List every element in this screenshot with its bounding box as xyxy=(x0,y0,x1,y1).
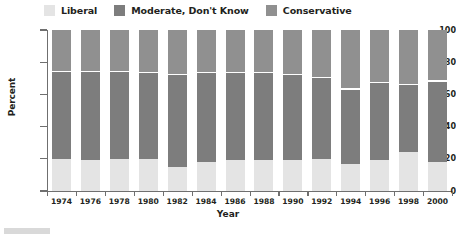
x-axis-tick xyxy=(394,191,395,196)
bar-segment-conservative xyxy=(52,30,71,72)
bar-segment-moderate xyxy=(399,85,418,153)
bar-segment-liberal xyxy=(139,159,158,191)
segment-divider xyxy=(168,74,187,75)
bar-segment-conservative xyxy=(341,30,360,90)
x-axis-tick xyxy=(336,191,337,196)
x-axis-tick xyxy=(47,191,48,196)
x-axis-tick-label: 1996 xyxy=(366,197,394,206)
y-axis-tick xyxy=(40,126,47,127)
x-axis-tick-label: 1978 xyxy=(105,197,133,206)
x-axis-tick-label: 2000 xyxy=(424,197,452,206)
segment-divider xyxy=(254,72,273,73)
table-row[interactable] xyxy=(168,30,187,191)
x-axis-tick-label: 1994 xyxy=(337,197,365,206)
x-axis-tick-label: 1976 xyxy=(76,197,104,206)
y-axis-tick xyxy=(40,94,47,95)
x-axis-tick xyxy=(452,191,453,196)
segment-divider xyxy=(139,72,158,73)
table-row[interactable] xyxy=(312,30,331,191)
bar-segment-moderate xyxy=(428,82,447,163)
table-row[interactable] xyxy=(197,30,216,191)
x-axis-tick xyxy=(365,191,366,196)
bar-segment-moderate xyxy=(81,72,100,161)
table-row[interactable] xyxy=(226,30,245,191)
bar-segment-moderate xyxy=(226,73,245,160)
y-axis-tick xyxy=(40,29,47,30)
table-row[interactable] xyxy=(428,30,447,191)
bar-segment-liberal xyxy=(168,167,187,191)
bar-segment-liberal xyxy=(399,152,418,191)
y-axis-tick xyxy=(40,62,47,63)
bar-segment-moderate xyxy=(197,73,216,162)
bar-segment-conservative xyxy=(110,30,129,72)
bar-segment-moderate xyxy=(139,73,158,158)
table-row[interactable] xyxy=(370,30,389,191)
segment-divider xyxy=(110,71,129,72)
x-axis-tick-label: 1990 xyxy=(279,197,307,206)
bar-segment-moderate xyxy=(52,72,71,159)
bar-segment-conservative xyxy=(370,30,389,83)
table-row[interactable] xyxy=(254,30,273,191)
table-row[interactable] xyxy=(283,30,302,191)
bar-segment-conservative xyxy=(283,30,302,75)
bar-segment-conservative xyxy=(81,30,100,72)
x-axis-tick-label: 1988 xyxy=(250,197,278,206)
x-axis-tick xyxy=(163,191,164,196)
bar-segment-conservative xyxy=(226,30,245,73)
bar-segment-moderate xyxy=(168,75,187,167)
bar-segment-moderate xyxy=(283,75,302,160)
segment-divider xyxy=(312,77,331,78)
bar-segment-conservative xyxy=(428,30,447,82)
x-axis-tick xyxy=(307,191,308,196)
x-axis-tick-label: 1974 xyxy=(47,197,75,206)
plot-area: Percent 020406080100 1974197619781980198… xyxy=(0,0,456,238)
x-axis-tick-label: 1992 xyxy=(308,197,336,206)
bar-segment-liberal xyxy=(226,160,245,191)
bar-segment-liberal xyxy=(52,159,71,191)
bar-segment-liberal xyxy=(197,162,216,191)
table-row[interactable] xyxy=(341,30,360,191)
bar-segment-liberal xyxy=(341,164,360,191)
bar-segment-liberal xyxy=(283,160,302,191)
y-axis-line xyxy=(47,30,48,191)
bar-segment-conservative xyxy=(312,30,331,78)
y-axis-tick xyxy=(40,158,47,159)
x-axis-tick-label: 1982 xyxy=(163,197,191,206)
bar-segment-conservative xyxy=(399,30,418,85)
segment-divider xyxy=(399,84,418,85)
bar-segment-moderate xyxy=(370,83,389,160)
table-row[interactable] xyxy=(399,30,418,191)
segment-divider xyxy=(428,80,447,81)
bar-segment-liberal xyxy=(254,160,273,191)
segment-divider xyxy=(341,88,360,89)
table-row[interactable] xyxy=(52,30,71,191)
bar-segment-conservative xyxy=(139,30,158,73)
x-axis-tick xyxy=(221,191,222,196)
bar-segment-liberal xyxy=(370,160,389,191)
segment-divider xyxy=(226,72,245,73)
stacked-bar-chart: Liberal Moderate, Don't Know Conservativ… xyxy=(0,0,456,238)
bar-segment-moderate xyxy=(341,90,360,164)
x-axis-tick-label: 1980 xyxy=(134,197,162,206)
x-axis-tick xyxy=(250,191,251,196)
table-row[interactable] xyxy=(81,30,100,191)
bar-segment-moderate xyxy=(110,72,129,159)
footer-bar-decoration xyxy=(4,228,50,234)
segment-divider xyxy=(81,71,100,72)
x-axis-tick xyxy=(76,191,77,196)
bar-segment-liberal xyxy=(312,159,331,191)
table-row[interactable] xyxy=(110,30,129,191)
y-axis-title: Percent xyxy=(7,67,17,127)
bar-segment-liberal xyxy=(428,162,447,191)
x-axis-tick-label: 1984 xyxy=(192,197,220,206)
x-axis-tick xyxy=(278,191,279,196)
x-axis-tick-label: 1998 xyxy=(395,197,423,206)
table-row[interactable] xyxy=(139,30,158,191)
bar-segment-moderate xyxy=(312,78,331,159)
bar-segment-conservative xyxy=(254,30,273,73)
x-axis-tick xyxy=(105,191,106,196)
bar-segment-conservative xyxy=(197,30,216,73)
bar-segment-liberal xyxy=(110,159,129,191)
y-axis-tick xyxy=(40,190,47,191)
segment-divider xyxy=(283,74,302,75)
